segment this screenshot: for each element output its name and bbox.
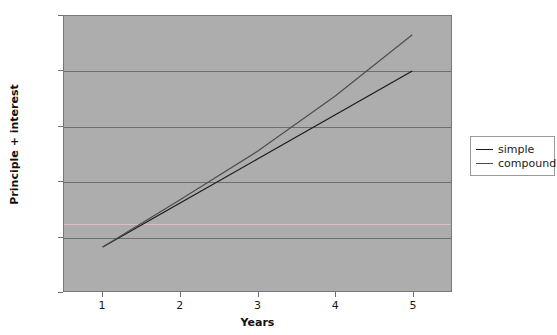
legend-label: simple xyxy=(498,144,534,155)
x-tick-label: 5 xyxy=(393,299,433,312)
legend-item-simple[interactable]: simple xyxy=(476,142,550,156)
legend-line-icon xyxy=(476,163,493,164)
line-chart: Principle + interest 100110120130140150 … xyxy=(0,0,557,335)
x-tick-mark xyxy=(335,292,336,297)
series-line-simple xyxy=(103,71,413,247)
x-tick-label: 4 xyxy=(315,299,355,312)
y-tick-mark xyxy=(58,292,63,293)
legend: simplecompound xyxy=(470,136,555,176)
legend-label: compound xyxy=(498,158,556,169)
x-tick-label: 2 xyxy=(160,299,200,312)
series-lines xyxy=(64,16,451,291)
legend-line-icon xyxy=(476,149,493,150)
x-tick-label: 3 xyxy=(238,299,278,312)
x-tick-label: 1 xyxy=(82,299,122,312)
series-line-compound xyxy=(103,35,413,247)
x-axis-label: Years xyxy=(63,316,452,329)
legend-item-compound[interactable]: compound xyxy=(476,156,550,170)
plot-area xyxy=(63,15,452,292)
x-tick-mark xyxy=(102,292,103,297)
x-tick-mark xyxy=(258,292,259,297)
x-tick-mark xyxy=(180,292,181,297)
x-tick-mark xyxy=(413,292,414,297)
y-axis-label: Principle + interest xyxy=(8,65,21,225)
